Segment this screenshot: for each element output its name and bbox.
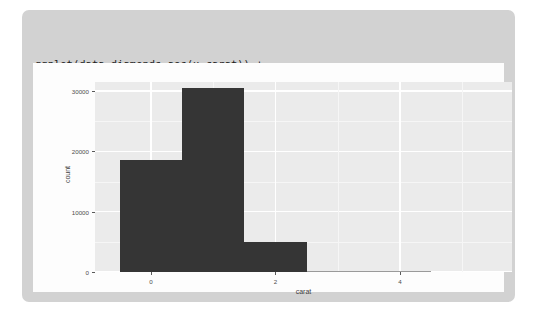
code-output-card: ggplot(data=diamonds,aes(x=carat)) + geo… bbox=[22, 10, 515, 302]
x-tick-label: 4 bbox=[398, 278, 401, 285]
y-tick-label: 20000 bbox=[33, 148, 89, 155]
histogram-bar bbox=[120, 160, 182, 272]
x-tick-label: 0 bbox=[149, 278, 152, 285]
gridline-minor-horizontal bbox=[95, 121, 512, 122]
histogram-bar bbox=[182, 88, 244, 272]
x-tick-label: 2 bbox=[274, 278, 277, 285]
x-tick-mark bbox=[151, 272, 152, 275]
gridline-minor-vertical bbox=[462, 82, 463, 272]
histogram-bar bbox=[307, 271, 369, 272]
gridline-major-horizontal bbox=[95, 151, 512, 152]
y-tick-mark bbox=[92, 272, 95, 273]
y-axis-title: count bbox=[64, 147, 71, 203]
x-axis-title: carat bbox=[296, 288, 312, 295]
y-tick-mark bbox=[92, 91, 95, 92]
gridline-major-horizontal bbox=[95, 90, 512, 91]
plot-output: 0100002000030000 024 count carat bbox=[33, 63, 504, 292]
y-tick-label: 30000 bbox=[33, 88, 89, 95]
histogram-bar bbox=[244, 242, 306, 272]
gridline-major-vertical bbox=[399, 82, 400, 272]
y-tick-mark bbox=[92, 151, 95, 152]
y-tick-mark bbox=[92, 212, 95, 213]
x-tick-mark bbox=[400, 272, 401, 275]
y-tick-label: 0 bbox=[33, 269, 89, 276]
chart-panel bbox=[95, 82, 512, 272]
gridline-minor-vertical bbox=[338, 82, 339, 272]
x-tick-mark bbox=[275, 272, 276, 275]
y-tick-label: 10000 bbox=[33, 208, 89, 215]
